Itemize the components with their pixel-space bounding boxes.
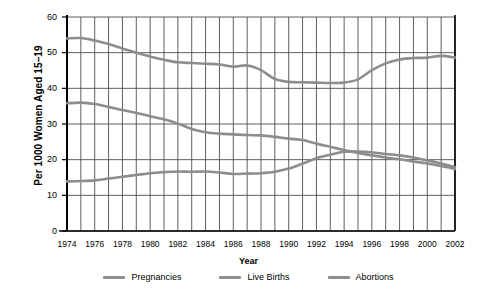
- y-tick-label: 0: [29, 227, 57, 236]
- plot-area: [0, 0, 497, 297]
- legend-swatch-icon: [328, 276, 350, 279]
- legend-label: Live Births: [247, 272, 289, 282]
- legend-item: Pregnancies: [103, 272, 181, 282]
- x-tick-label: 2002: [435, 240, 475, 249]
- y-tick-label: 40: [29, 84, 57, 93]
- x-axis-title: Year: [0, 256, 497, 266]
- legend-swatch-icon: [219, 276, 241, 279]
- chart-legend: PregnanciesLive BirthsAbortions: [0, 272, 497, 282]
- y-tick-label: 20: [29, 155, 57, 164]
- y-tick-label: 30: [29, 120, 57, 129]
- y-tick-label: 10: [29, 191, 57, 200]
- y-tick-label: 50: [29, 48, 57, 57]
- line-chart: Per 1000 Women Aged 15–19 0102030405060 …: [0, 0, 497, 297]
- legend-label: Pregnancies: [131, 272, 181, 282]
- legend-label: Abortions: [356, 272, 394, 282]
- legend-item: Live Births: [219, 272, 289, 282]
- legend-swatch-icon: [103, 276, 125, 279]
- legend-item: Abortions: [328, 272, 394, 282]
- y-tick-label: 60: [29, 13, 57, 22]
